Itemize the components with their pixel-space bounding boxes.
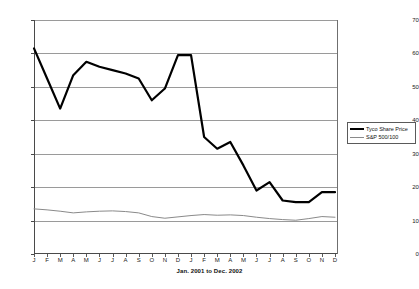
x-axis-tick-mark [217, 254, 218, 257]
x-axis-tick-label: O [146, 257, 158, 264]
x-axis-tick-mark [204, 254, 205, 257]
plot-right-edge [337, 20, 338, 254]
plot-area [34, 20, 337, 254]
gridline [35, 20, 338, 21]
x-axis-tick-label: M [54, 257, 66, 264]
legend-item-tyco: Tyco Share Price [350, 125, 413, 133]
x-axis-tick-mark [256, 254, 257, 257]
x-axis-tick-mark [139, 254, 140, 257]
x-axis-tick-label: M [237, 257, 249, 264]
x-axis-tick-label: F [198, 257, 210, 264]
x-axis-tick-label: A [120, 257, 132, 264]
x-axis-tick-label: F [41, 257, 53, 264]
x-axis-tick-mark [243, 254, 244, 257]
y-axis-tick-label: 70 [395, 17, 419, 23]
legend-swatch-sp500-icon [350, 137, 364, 138]
x-axis-tick-label: N [316, 257, 328, 264]
x-axis-tick-mark [152, 254, 153, 257]
legend-item-sp500: S&P 500/100 [350, 133, 413, 141]
y-axis-tick-label: 60 [395, 50, 419, 56]
x-axis-tick-label: J [264, 257, 276, 264]
x-axis-tick-mark [191, 254, 192, 257]
x-axis-tick-label: N [159, 257, 171, 264]
x-axis-tick-mark [113, 254, 114, 257]
x-axis-tick-label: J [107, 257, 119, 264]
x-axis-tick-mark [86, 254, 87, 257]
x-axis-tick-mark [165, 254, 166, 257]
y-axis-tick-label: 0 [395, 251, 419, 257]
x-axis-tick-label: A [224, 257, 236, 264]
y-axis-tick-label: 20 [395, 184, 419, 190]
gridline [35, 154, 338, 155]
x-axis-tick-mark [335, 254, 336, 257]
y-axis-tick-label: 50 [395, 84, 419, 90]
legend-label-tyco: Tyco Share Price [366, 125, 408, 133]
gridline [35, 187, 338, 188]
x-axis-tick-mark [230, 254, 231, 257]
legend-label-sp500: S&P 500/100 [366, 133, 398, 141]
x-axis-tick-mark [34, 254, 35, 257]
x-axis-tick-mark [60, 254, 61, 257]
x-axis-tick-label: D [172, 257, 184, 264]
x-axis-tick-label: M [80, 257, 92, 264]
x-axis-tick-label: O [303, 257, 315, 264]
x-axis-tick-mark [126, 254, 127, 257]
x-axis-tick-label: S [133, 257, 145, 264]
x-axis-tick-mark [73, 254, 74, 257]
gridline [35, 221, 338, 222]
legend-swatch-tyco-icon [350, 128, 364, 130]
gridline [35, 53, 338, 54]
x-axis-tick-label: J [28, 257, 40, 264]
x-axis-tick-label: S [290, 257, 302, 264]
x-axis-tick-label: D [329, 257, 341, 264]
x-axis-tick-mark [322, 254, 323, 257]
x-axis-tick-mark [178, 254, 179, 257]
y-axis-tick-label: 30 [395, 151, 419, 157]
x-axis-tick-mark [309, 254, 310, 257]
gridline [35, 87, 338, 88]
chart-container: 010203040506070 JFMAMJJASONDJFMAMJJASOND… [0, 0, 419, 289]
x-axis-tick-label: A [67, 257, 79, 264]
x-axis-tick-mark [296, 254, 297, 257]
x-axis-tick-mark [270, 254, 271, 257]
x-axis-tick-label: J [250, 257, 262, 264]
x-axis-tick-mark [283, 254, 284, 257]
x-axis-tick-mark [47, 254, 48, 257]
x-axis-tick-label: J [185, 257, 197, 264]
x-axis-tick-label: A [277, 257, 289, 264]
x-axis-tick-label: J [93, 257, 105, 264]
x-axis-tick-mark [99, 254, 100, 257]
y-axis-tick-label: 10 [395, 218, 419, 224]
x-axis-title: Jan. 2001 to Dec. 2002 [0, 267, 419, 275]
chart-legend: Tyco Share Price S&P 500/100 [347, 122, 416, 144]
x-axis-tick-label: M [211, 257, 223, 264]
gridline [35, 120, 338, 121]
